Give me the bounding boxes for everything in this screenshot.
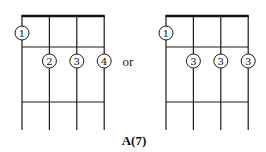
chord-diagram-figure: 1234 or 1333 A(7) (0, 0, 266, 152)
separator-or: or (123, 54, 135, 69)
finger-number: 2 (46, 56, 52, 67)
finger-marker: 3 (241, 54, 255, 68)
chord-diagram-right: 1333 (159, 16, 255, 130)
finger-number: 1 (19, 28, 25, 39)
finger-marker: 3 (70, 54, 84, 68)
finger-number: 3 (190, 56, 196, 67)
finger-number: 3 (74, 56, 80, 67)
finger-number: 3 (245, 56, 251, 67)
finger-marker: 1 (159, 26, 173, 40)
chord-name: A(7) (122, 133, 147, 148)
chord-diagram-left: 1234 (15, 16, 111, 130)
finger-marker: 3 (186, 54, 200, 68)
finger-number: 4 (101, 56, 107, 67)
finger-number: 1 (163, 28, 169, 39)
finger-marker: 1 (15, 26, 29, 40)
finger-marker: 2 (42, 54, 56, 68)
finger-number: 3 (218, 56, 224, 67)
finger-marker: 3 (214, 54, 228, 68)
finger-marker: 4 (97, 54, 111, 68)
